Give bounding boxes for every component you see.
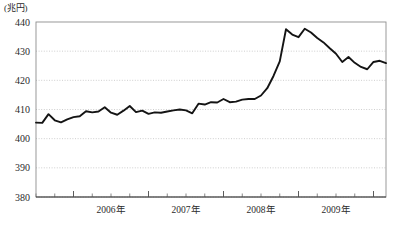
y-tick-label-420: 420: [15, 75, 30, 86]
x-axis-ticks: [36, 191, 374, 197]
y-tick-label-440: 440: [15, 17, 30, 28]
x-tick-label-2008: 2008年: [247, 204, 276, 215]
gridlines: [36, 51, 386, 197]
y-axis-tick-labels: 440430420410400390380: [15, 17, 30, 203]
y-tick-label-380: 380: [15, 192, 30, 203]
series-line-0: [36, 29, 386, 123]
y-tick-label-410: 410: [15, 104, 30, 115]
chart-container: (兆円) 440430420410400390380 2006年2007年200…: [0, 0, 397, 230]
y-tick-label-400: 400: [15, 133, 30, 144]
y-tick-label-390: 390: [15, 162, 30, 173]
x-axis-tick-labels: 2006年2007年2008年2009年: [97, 204, 351, 215]
data-series: [36, 29, 386, 123]
x-tick-label-2007: 2007年: [172, 204, 201, 215]
x-tick-label-2006: 2006年: [97, 204, 126, 215]
y-tick-label-430: 430: [15, 46, 30, 57]
x-tick-label-2009: 2009年: [322, 204, 351, 215]
line-chart-plot: 440430420410400390380 2006年2007年2008年200…: [0, 0, 397, 230]
